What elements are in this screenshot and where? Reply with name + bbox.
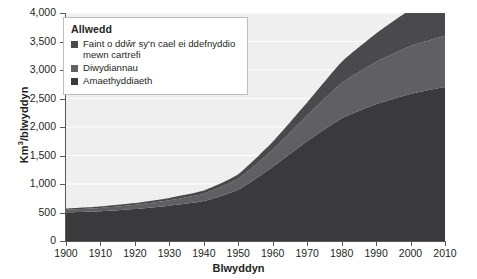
x-tick-mark <box>273 241 274 246</box>
legend: Allwedd Faint o ddŵr sy'n cael ei ddefn… <box>63 17 248 95</box>
legend-item: Faint o ddŵr sy'n cael ei ddefnyddio me… <box>71 38 240 61</box>
x-tick-mark <box>238 241 239 246</box>
legend-swatch-icon <box>71 65 78 72</box>
y-tick-label: 2,000 <box>0 120 56 132</box>
legend-swatch-icon <box>71 41 78 48</box>
y-tick-mark <box>60 99 65 100</box>
legend-item-label: Amaethyddiaeth <box>83 75 152 86</box>
x-tick-mark <box>376 241 377 246</box>
y-tick-label: 3,000 <box>0 63 56 75</box>
y-tick-label: 0 <box>0 234 56 246</box>
y-tick-mark <box>60 184 65 185</box>
x-tick-mark <box>445 241 446 246</box>
y-tick-label: 2,500 <box>0 92 56 104</box>
x-tick-mark <box>169 241 170 246</box>
x-tick-mark <box>411 241 412 246</box>
y-tick-label: 500 <box>0 206 56 218</box>
legend-item: Amaethyddiaeth <box>71 75 240 86</box>
x-tick-label: 2010 <box>423 247 467 259</box>
x-tick-mark <box>307 241 308 246</box>
y-tick-mark <box>60 127 65 128</box>
stacked-area-chart: Km3/blwyddyn 05001,0001,5002,0002,5003,0… <box>0 0 477 279</box>
x-axis-line <box>65 241 446 242</box>
x-tick-mark <box>100 241 101 246</box>
x-tick-mark <box>135 241 136 246</box>
legend-item: Diwydiannau <box>71 62 240 73</box>
legend-swatch-icon <box>71 78 78 85</box>
x-tick-mark <box>342 241 343 246</box>
y-tick-label: 1,500 <box>0 149 56 161</box>
y-tick-label: 1,000 <box>0 177 56 189</box>
x-axis-title: Blwyddyn <box>0 262 477 274</box>
y-tick-label: 3,500 <box>0 35 56 47</box>
y-axis-title-exponent: 3 <box>16 141 25 145</box>
y-tick-mark <box>60 213 65 214</box>
y-tick-label: 4,000 <box>0 6 56 18</box>
legend-items: Faint o ddŵr sy'n cael ei ddefnyddio me… <box>71 38 240 87</box>
legend-item-label: Faint o ddŵr sy'n cael ei ddefnyddio me… <box>83 38 240 61</box>
x-tick-mark <box>66 241 67 246</box>
y-tick-mark <box>60 13 65 14</box>
y-tick-mark <box>60 156 65 157</box>
x-tick-mark <box>204 241 205 246</box>
legend-item-label: Diwydiannau <box>83 62 138 73</box>
legend-title: Allwedd <box>71 23 240 35</box>
y-tick-mark <box>60 241 65 242</box>
